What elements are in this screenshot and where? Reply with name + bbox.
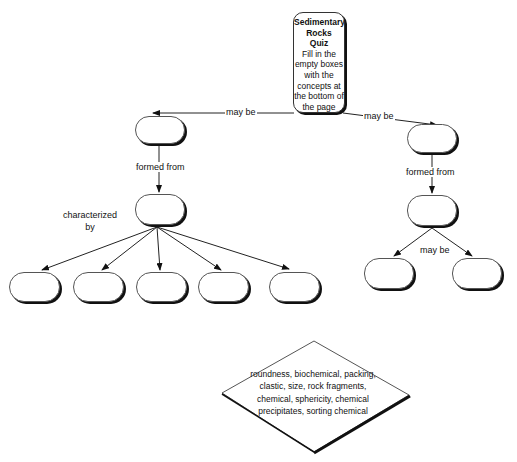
empty-box-characteristic-2[interactable] <box>73 272 124 302</box>
empty-box-right-subtype-2[interactable] <box>452 258 502 289</box>
quiz-instructions: Fill in the empty boxes with the concept… <box>294 49 344 113</box>
empty-box-characteristic-4[interactable] <box>198 272 249 302</box>
quiz-title-line-1: Sedimentary <box>294 17 344 28</box>
empty-box-right-origin[interactable] <box>407 195 457 226</box>
link-label-may-be-right: may be <box>363 111 395 121</box>
link-label-formed-from-left: formed from <box>135 162 186 172</box>
empty-box-characteristic-1[interactable] <box>9 272 60 302</box>
quiz-title-box: Sedimentary Rocks Quiz Fill in the empty… <box>293 12 345 113</box>
empty-box-right-type[interactable] <box>407 124 457 153</box>
link-label-may-be-right-branch: may be <box>420 244 450 256</box>
empty-box-left-type[interactable] <box>135 116 185 144</box>
link-label-formed-from-right: formed from <box>405 167 456 177</box>
quiz-title-line-3: Quiz <box>294 38 344 49</box>
empty-box-characteristic-3[interactable] <box>136 272 187 302</box>
empty-box-right-subtype-1[interactable] <box>364 258 414 289</box>
empty-box-left-origin[interactable] <box>135 194 185 225</box>
empty-box-characteristic-5[interactable] <box>269 272 320 302</box>
quiz-title-line-2: Rocks <box>294 28 344 39</box>
link-label-may-be-left: may be <box>225 107 257 117</box>
word-bank-text: roundness, biochemical, packing, clastic… <box>246 368 380 417</box>
link-label-characterized-by: characterized by <box>60 209 120 233</box>
